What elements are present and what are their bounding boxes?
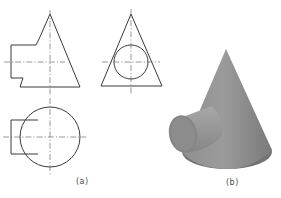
- side-view-cone-outline: [101, 14, 162, 86]
- isometric-view: [165, 49, 272, 169]
- diagram-canvas: [0, 0, 281, 198]
- side-view: [101, 9, 162, 94]
- caption-b: (b): [226, 178, 239, 187]
- caption-a: (a): [76, 177, 89, 186]
- front-view: [4, 10, 80, 95]
- top-view: [3, 98, 86, 176]
- front-view-outline: [11, 14, 80, 87]
- cone-body: [182, 49, 272, 169]
